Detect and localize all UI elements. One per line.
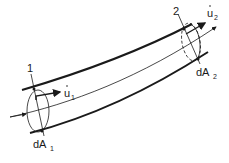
section-1-label: 1 <box>27 62 33 74</box>
stream-tube-diagram: 1 2 u 1 u 2 dA 1 dA 2 <box>0 0 229 163</box>
section-2-bottom-point <box>197 58 200 61</box>
section-2-line <box>178 14 200 64</box>
velocity-2-dot <box>209 5 211 7</box>
section-1-bottom-point <box>41 130 44 133</box>
velocity-1-arrow <box>36 92 60 100</box>
area-1-label: dA <box>33 138 47 150</box>
velocity-2-subscript: 2 <box>214 14 218 21</box>
inflow-arrow <box>10 114 26 117</box>
velocity-1-dot <box>66 85 68 87</box>
area-1-subscript: 1 <box>50 145 54 152</box>
velocity-1-subscript: 1 <box>71 94 75 101</box>
section-1-top-point <box>33 88 36 91</box>
velocity-2-label: u <box>207 7 213 19</box>
velocity-1-label: u <box>64 87 70 99</box>
section-2-top-point <box>183 28 186 31</box>
area-2-label: dA <box>196 66 210 78</box>
area-2-subscript: 2 <box>213 73 217 80</box>
section-2-label: 2 <box>173 5 179 17</box>
